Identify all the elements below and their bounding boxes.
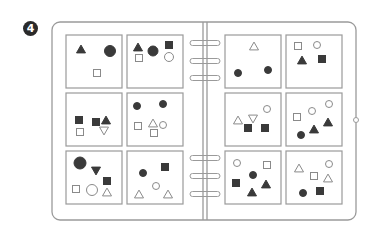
clasp-icon bbox=[354, 118, 359, 123]
binder-illustration bbox=[0, 0, 378, 232]
shape-card-r2[interactable] bbox=[286, 35, 342, 88]
ring-icon bbox=[190, 173, 220, 179]
shape-card-l3[interactable] bbox=[66, 93, 122, 146]
shape-card-l2[interactable] bbox=[127, 35, 183, 88]
filled-circle-icon bbox=[134, 103, 141, 110]
filled-circle-icon bbox=[148, 46, 158, 56]
shape-card-r4[interactable] bbox=[286, 93, 342, 146]
outline-square-icon bbox=[136, 55, 143, 62]
shape-card-l4[interactable] bbox=[127, 93, 183, 146]
outline-square-icon bbox=[77, 129, 84, 136]
filled-square-icon bbox=[245, 125, 252, 132]
filled-square-icon bbox=[319, 56, 326, 63]
ring-icon bbox=[190, 75, 220, 81]
filled-square-icon bbox=[262, 125, 269, 132]
shape-card-l1[interactable] bbox=[66, 35, 122, 88]
shape-card-r6[interactable] bbox=[286, 151, 342, 204]
filled-square-icon bbox=[317, 188, 324, 195]
filled-square-icon bbox=[233, 180, 240, 187]
filled-square-icon bbox=[162, 164, 169, 171]
filled-circle-icon bbox=[250, 172, 257, 179]
outline-circle-icon bbox=[87, 185, 98, 196]
outline-circle-icon bbox=[165, 53, 174, 62]
outline-circle-icon bbox=[309, 108, 316, 115]
filled-circle-icon bbox=[300, 190, 307, 197]
ring-icon bbox=[190, 40, 220, 46]
outline-square-icon bbox=[311, 173, 318, 180]
filled-square-icon bbox=[166, 42, 173, 49]
filled-circle-icon bbox=[74, 157, 86, 169]
outline-square-icon bbox=[73, 186, 80, 193]
outline-circle-icon bbox=[234, 160, 241, 167]
filled-square-icon bbox=[104, 178, 111, 185]
outline-circle-icon bbox=[326, 161, 333, 168]
outline-circle-icon bbox=[264, 106, 271, 113]
outline-square-icon bbox=[135, 123, 142, 130]
filled-circle-icon bbox=[160, 101, 167, 108]
shape-card-l5[interactable] bbox=[66, 151, 122, 204]
outline-square-icon bbox=[94, 70, 101, 77]
outline-circle-icon bbox=[314, 42, 321, 49]
outline-square-icon bbox=[295, 43, 302, 50]
shape-card-r5[interactable] bbox=[225, 151, 281, 204]
shape-card-l6[interactable] bbox=[127, 151, 183, 204]
filled-square-icon bbox=[76, 117, 83, 124]
filled-circle-icon bbox=[105, 46, 116, 57]
filled-circle-icon bbox=[298, 132, 305, 139]
filled-square-icon bbox=[93, 119, 100, 126]
filled-circle-icon bbox=[265, 67, 272, 74]
outline-circle-icon bbox=[326, 101, 333, 108]
shape-card-r1[interactable] bbox=[225, 35, 281, 88]
filled-circle-icon bbox=[235, 70, 242, 77]
filled-circle-icon bbox=[140, 170, 147, 177]
ring-icon bbox=[190, 58, 220, 64]
outline-square-icon bbox=[151, 130, 158, 137]
shape-card-r3[interactable] bbox=[225, 93, 281, 146]
ring-icon bbox=[190, 191, 220, 197]
ring-icon bbox=[190, 155, 220, 161]
outline-square-icon bbox=[294, 114, 301, 121]
outline-circle-icon bbox=[153, 183, 160, 190]
outline-square-icon bbox=[264, 162, 271, 169]
outline-circle-icon bbox=[160, 122, 167, 129]
